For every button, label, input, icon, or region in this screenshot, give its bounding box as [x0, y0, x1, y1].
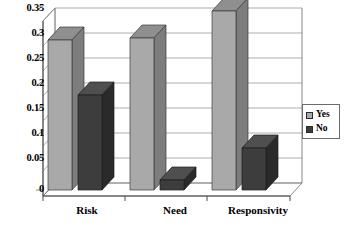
x-axis-label-responsivity: Responsivity [210, 205, 306, 216]
legend-item-yes: Yes [306, 108, 339, 122]
y-tick-label: 0.15 [26, 103, 44, 114]
y-tick-label: 0.35 [26, 3, 44, 14]
y-tick-label: 0.1 [31, 128, 44, 139]
legend-item-no: No [306, 122, 339, 136]
legend-swatch-yes [306, 112, 313, 119]
legend-label-yes: Yes [316, 110, 330, 120]
x-axis-label-need: Need [140, 205, 210, 216]
x-axis-label-risk: Risk [52, 205, 122, 216]
y-tick-label: 0 [39, 184, 44, 195]
y-tick-label: 0.3 [31, 28, 44, 39]
plot-area [0, 0, 350, 229]
bar-need-yes [130, 25, 166, 190]
legend-swatch-no [306, 126, 313, 133]
y-tick-label: 0.05 [26, 153, 44, 164]
bar-chart: 0.35 0.3 0.25 0.2 0.15 0.1 0.05 0 Risk N… [0, 0, 350, 229]
y-tick-label: 0.25 [26, 53, 44, 64]
y-tick-label: 0.2 [31, 78, 44, 89]
x-axis-ticks [43, 196, 290, 201]
legend-label-no: No [316, 124, 328, 134]
bar-responsivity-no [242, 135, 278, 190]
legend: Yes No [302, 104, 340, 139]
bar-risk-no [78, 82, 114, 190]
